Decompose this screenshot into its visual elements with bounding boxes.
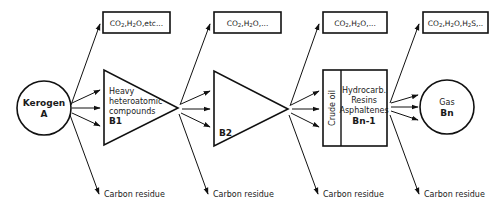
b1-arrows [179,24,210,194]
gas-title: Gas [439,98,454,107]
bn1-line-2: Resins [351,96,377,105]
byproduct-box-2: CO2,H2O,... [214,12,281,33]
b2-code: B2 [219,128,232,138]
node-b1: Heavy heteroatomic compounds B1 [104,70,178,145]
bn1-line-3: Asphaltenes [339,106,388,115]
crude-oil-label: Crude oil [328,90,337,126]
b1-line-2: heteroatomic [109,97,162,106]
bn1-arrows [390,24,419,194]
carbon-residue-label-1: Carbon residue [104,190,165,199]
b1-line-3: compounds [109,107,155,116]
gas-code: Bn [440,108,453,118]
node-b2: B2 [214,71,288,146]
carbon-residue-label-3: Carbon residue [323,190,384,199]
carbon-residue-label-4: Carbon residue [424,190,485,199]
node-kerogen: Kerogen A [17,81,71,135]
byproduct-box-3: CO2,H2O,... [323,12,387,33]
kerogen-title: Kerogen [23,98,66,108]
b1-code: B1 [109,116,122,126]
b1-line-1: Heavy [109,87,135,96]
bn1-code: Bn-1 [352,116,375,126]
byproduct-label-2: CO2,H2O,... [227,19,269,29]
node-bn-1: Crude oil Hydrocarb. Resins Asphaltenes … [323,70,389,146]
byproduct-label-1: CO2,H2O,etc... [110,19,163,29]
bn1-line-1: Hydrocarb. [342,86,386,95]
kerogen-arrows [70,24,100,194]
kerogen-maturation-diagram: CO2,H2O,etc... CO2,H2O,... CO2,H2O,... C… [0,0,503,209]
carbon-residue-label-2: Carbon residue [213,190,274,199]
node-gas: Gas Bn [420,80,474,134]
byproduct-box-4: CO2,H2O,H2S,.. [423,12,488,33]
byproduct-box-1: CO2,H2O,etc... [103,12,170,33]
b2-arrows [289,24,319,194]
byproduct-label-4: CO2,H2O,H2S,.. [428,19,484,29]
byproduct-label-3: CO2,H2O,... [334,19,376,29]
kerogen-code: A [41,109,48,119]
